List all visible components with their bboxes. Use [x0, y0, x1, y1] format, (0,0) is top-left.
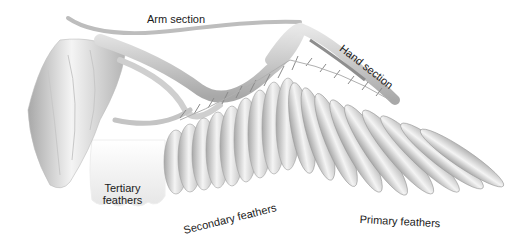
tertiary-feathers-label: Tertiary feathers: [100, 182, 145, 206]
tertiary-label-line2: feathers: [103, 194, 143, 206]
arm-section-label: Arm section: [147, 13, 205, 25]
wing-diagram: Arm section Hand section Tertiary feathe…: [0, 0, 529, 242]
tertiary-label-line1: Tertiary: [104, 182, 140, 194]
